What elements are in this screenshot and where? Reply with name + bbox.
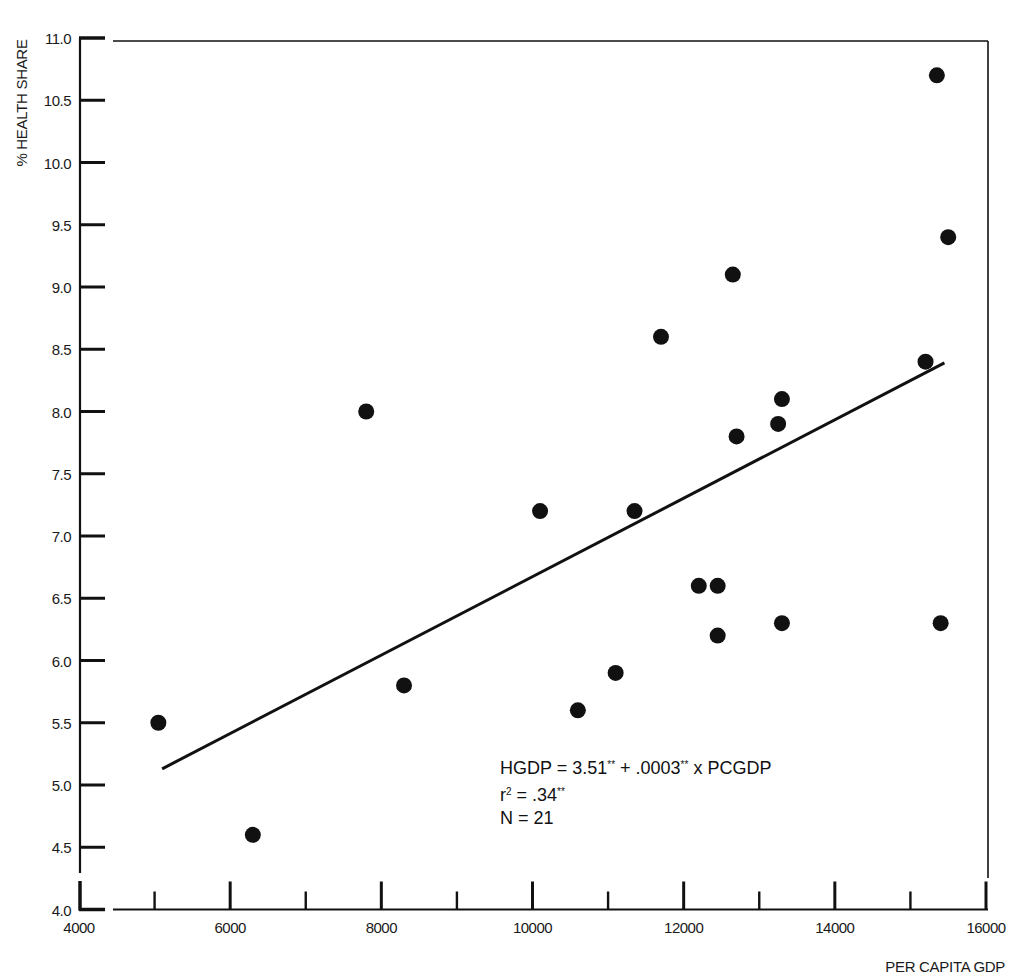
- x-axis-title: PER CAPITA GDP: [885, 958, 1005, 975]
- y-tick-label: 6.0: [52, 653, 72, 670]
- data-point: [729, 428, 745, 444]
- data-point: [940, 229, 956, 245]
- regression-line-path: [162, 363, 944, 769]
- y-tick-label: 5.0: [52, 777, 72, 794]
- sample-size: N = 21: [500, 807, 771, 830]
- y-tick-label: 11.0: [45, 30, 71, 47]
- x-tick-label: 4000: [63, 919, 95, 936]
- data-point: [710, 578, 726, 594]
- data-point: [929, 67, 945, 83]
- data-point: [653, 329, 669, 345]
- data-point: [725, 267, 741, 283]
- data-point: [532, 503, 548, 519]
- x-tick-label: 8000: [366, 919, 398, 936]
- data-point: [933, 615, 949, 631]
- r-squared: r2 = .34**: [500, 780, 771, 807]
- x-tick-label: 6000: [214, 919, 246, 936]
- x-tick-label: 14000: [815, 919, 854, 936]
- regression-line: [162, 363, 944, 769]
- data-points: [150, 67, 956, 842]
- data-point: [710, 628, 726, 644]
- y-tick-label: 5.5: [52, 715, 72, 732]
- data-point: [918, 354, 934, 370]
- y-tick-label: 9.5: [52, 217, 72, 234]
- data-point: [774, 391, 790, 407]
- data-point: [150, 715, 166, 731]
- y-tick-label: 7.0: [52, 528, 72, 545]
- y-tick-label: 8.5: [52, 341, 72, 358]
- x-tick-label: 12000: [664, 919, 703, 936]
- regression-equation: HGDP = 3.51** + .0003** x PCGDP: [500, 753, 771, 780]
- x-axis: 40006000800010000120001400016000: [63, 882, 1005, 936]
- y-axis: 4.04.55.05.56.06.57.07.58.08.59.09.510.0…: [44, 30, 105, 919]
- data-point: [396, 677, 412, 693]
- y-tick-label: 7.5: [52, 466, 72, 483]
- x-tick-label: 16000: [966, 919, 1005, 936]
- data-point: [570, 702, 586, 718]
- y-tick-label: 6.5: [52, 590, 72, 607]
- x-tick-label: 10000: [513, 919, 552, 936]
- y-tick-label: 10.5: [44, 92, 71, 109]
- data-point: [691, 578, 707, 594]
- regression-annotation: HGDP = 3.51** + .0003** x PCGDP r2 = .34…: [500, 753, 771, 830]
- data-point: [774, 615, 790, 631]
- data-point: [627, 503, 643, 519]
- data-point: [608, 665, 624, 681]
- y-tick-label: 4.5: [52, 839, 72, 856]
- y-tick-label: 10.0: [44, 155, 71, 172]
- y-tick-label: 8.0: [52, 404, 72, 421]
- data-point: [770, 416, 786, 432]
- data-point: [245, 827, 261, 843]
- data-point: [358, 404, 374, 420]
- y-tick-label: 9.0: [52, 279, 72, 296]
- y-axis-title: % HEALTH SHARE: [13, 39, 30, 167]
- y-tick-label: 4.0: [52, 902, 72, 919]
